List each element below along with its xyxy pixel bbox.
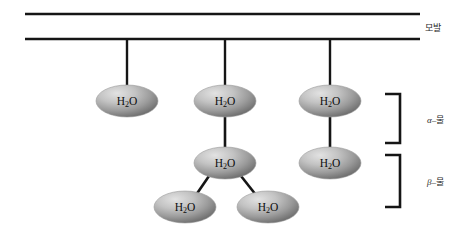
water-molecule: H2O	[299, 85, 361, 117]
alpha-phase-label: α–물	[427, 113, 444, 126]
beta-phase-bracket	[385, 155, 400, 207]
water-molecule: H2O	[299, 147, 361, 179]
hair-water-diagram: H2O H2O H2O H2O H2O H2O	[0, 0, 469, 235]
hair-to-water-bonds	[127, 39, 330, 86]
beta-phase-label: β–물	[427, 175, 444, 188]
hair-label: 모발	[425, 21, 441, 34]
water-molecule: H2O	[194, 85, 256, 117]
water-molecule: H2O	[237, 191, 299, 223]
alpha-korean-word: 물	[436, 115, 444, 125]
diagram-canvas: H2O H2O H2O H2O H2O H2O	[0, 0, 469, 235]
phase-brackets	[385, 94, 400, 207]
hair-surface-lines	[25, 14, 420, 39]
water-molecule: H2O	[154, 191, 216, 223]
water-molecule: H2O	[194, 147, 256, 179]
water-molecule-group: H2O H2O H2O H2O H2O H2O	[96, 85, 361, 223]
bond-right-branch	[241, 176, 256, 195]
beta-korean-word: 물	[436, 177, 444, 187]
alpha-phase-bracket	[385, 94, 400, 143]
water-molecule: H2O	[96, 85, 158, 117]
